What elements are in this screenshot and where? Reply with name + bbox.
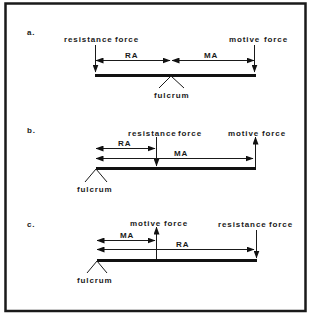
resistance-label: resistance bbox=[218, 220, 267, 229]
motive-force-label: force bbox=[264, 35, 288, 44]
ma-label: MA bbox=[120, 231, 134, 240]
panel-label: a. bbox=[27, 28, 35, 37]
ma-label: MA bbox=[204, 51, 218, 60]
resistance-label: resistance bbox=[128, 129, 177, 138]
fulcrum-symbol bbox=[159, 76, 184, 88]
resistance-force-label: force bbox=[115, 35, 139, 44]
figure-border bbox=[6, 4, 306, 312]
lever-diagram-svg: a. resistance force motive force RA MA f… bbox=[0, 0, 311, 319]
panel-c: c. motive force resistance force MA RA f… bbox=[27, 219, 293, 285]
lever-classes-figure: a. resistance force motive force RA MA f… bbox=[0, 0, 311, 319]
motive-force-label: force bbox=[164, 219, 188, 228]
fulcrum-symbol bbox=[87, 261, 107, 273]
panel-label: c. bbox=[27, 220, 35, 229]
ra-label: RA bbox=[125, 51, 138, 60]
motive-label: motive bbox=[130, 219, 161, 228]
resistance-label: resistance bbox=[64, 35, 113, 44]
resistance-force-label: force bbox=[178, 129, 202, 138]
fulcrum-label: fulcrum bbox=[154, 91, 190, 100]
motive-label: motive bbox=[228, 129, 259, 138]
ma-label: MA bbox=[174, 149, 188, 158]
ra-label: RA bbox=[118, 139, 131, 148]
fulcrum-label: fulcrum bbox=[77, 276, 113, 285]
panel-a: a. resistance force motive force RA MA f… bbox=[27, 28, 288, 100]
ra-label: RA bbox=[176, 240, 189, 249]
fulcrum-label: fulcrum bbox=[77, 185, 113, 194]
resistance-force-label: force bbox=[269, 220, 293, 229]
panel-b: b. resistance force motive force RA MA f… bbox=[27, 126, 286, 194]
motive-label: motive bbox=[229, 35, 260, 44]
fulcrum-symbol bbox=[85, 169, 107, 182]
motive-force-label: force bbox=[262, 129, 286, 138]
panel-label: b. bbox=[27, 126, 36, 135]
